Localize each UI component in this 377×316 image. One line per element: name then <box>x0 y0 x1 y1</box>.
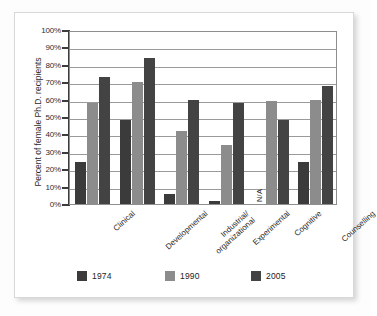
y-axis-tick-mark <box>62 65 68 67</box>
y-axis-tick-mark <box>62 30 68 32</box>
gridline <box>70 171 336 172</box>
x-axis-label: Developmental <box>164 209 210 251</box>
y-axis-tick-label: 60% <box>21 96 61 105</box>
legend-item-1990[interactable]: 1990 <box>165 271 200 281</box>
y-axis-tick-label: 0% <box>21 200 61 209</box>
bar-group <box>120 30 155 204</box>
bar-2005[interactable] <box>322 86 333 204</box>
gridline <box>70 189 336 190</box>
bar-1990[interactable] <box>176 131 187 204</box>
bar-1974[interactable] <box>75 162 86 204</box>
bar-1974[interactable] <box>164 194 175 204</box>
bar-group: N/A <box>254 30 289 204</box>
legend-item-1974[interactable]: 1974 <box>77 271 112 281</box>
y-axis-tick-label: 50% <box>21 113 61 122</box>
x-axis-label: Cognitive <box>293 209 324 238</box>
bar-1974[interactable] <box>120 120 131 204</box>
y-axis-tick-mark <box>62 82 68 84</box>
x-axis-label: Counselling <box>339 209 376 244</box>
y-axis-tick-mark <box>62 169 68 171</box>
bar-group <box>209 30 244 204</box>
bar-2005[interactable] <box>144 58 155 204</box>
y-axis-tick-label: 90% <box>21 43 61 52</box>
y-axis-tick-label: 10% <box>21 183 61 192</box>
gridline <box>70 84 336 85</box>
y-axis-tick-label: 100% <box>21 26 61 35</box>
bar-group <box>164 30 199 204</box>
legend-label: 1990 <box>180 271 200 281</box>
y-axis-tick-mark <box>62 187 68 189</box>
bar-chart: Percent of female Ph.D. recipients 100%9… <box>15 13 353 297</box>
gridline <box>70 102 336 103</box>
bar-1990[interactable] <box>310 100 321 204</box>
bar-1974[interactable] <box>209 201 220 204</box>
gridline <box>70 136 336 137</box>
y-axis-tick-label: 70% <box>21 78 61 87</box>
gridline <box>70 67 336 68</box>
y-axis-tick-label: 40% <box>21 130 61 139</box>
y-axis-tick-mark <box>62 100 68 102</box>
legend-item-2005[interactable]: 2005 <box>251 271 286 281</box>
bar-1990[interactable] <box>87 103 98 204</box>
y-axis-tick-mark <box>62 47 68 49</box>
y-axis-tick-mark <box>62 152 68 154</box>
bar-2005[interactable] <box>278 120 289 204</box>
bar-2005[interactable] <box>99 77 110 204</box>
bar-2005[interactable] <box>188 100 199 204</box>
chart-legend: 197419902005 <box>77 271 317 285</box>
legend-label: 1974 <box>92 271 112 281</box>
chart-card: Percent of female Ph.D. recipients 100%9… <box>14 12 354 298</box>
x-axis-label: Industrial/organizational <box>207 209 256 256</box>
y-axis-tick-label: 20% <box>21 165 61 174</box>
y-axis-tick-mark <box>62 204 68 206</box>
na-annotation: N/A <box>255 189 264 202</box>
y-axis-tick-label: 30% <box>21 148 61 157</box>
legend-label: 2005 <box>266 271 286 281</box>
bar-group <box>75 30 110 204</box>
y-axis-tick-label: 80% <box>21 61 61 70</box>
plot-area: N/A <box>69 31 337 205</box>
bar-2005[interactable] <box>233 103 244 204</box>
bar-1990[interactable] <box>132 82 143 204</box>
legend-swatch-icon <box>77 271 87 281</box>
bar-1990[interactable] <box>266 101 277 204</box>
gridline <box>70 49 336 50</box>
gridline <box>70 154 336 155</box>
bar-1990[interactable] <box>221 145 232 204</box>
y-axis-tick-mark <box>62 134 68 136</box>
gridline <box>70 119 336 120</box>
bar-1974[interactable] <box>298 162 309 204</box>
x-axis-label: Experimental <box>251 209 292 247</box>
legend-swatch-icon <box>251 271 261 281</box>
y-axis-tick-mark <box>62 117 68 119</box>
bar-group <box>298 30 333 204</box>
x-axis-label: Clinical <box>112 209 137 233</box>
legend-swatch-icon <box>165 271 175 281</box>
